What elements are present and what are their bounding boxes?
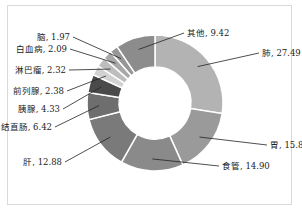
data-label-10: 其他, 9.42 — [187, 28, 229, 38]
data-label-1: 胃, 15.80 — [270, 140, 302, 150]
data-label-3: 肝, 12.88 — [23, 157, 62, 167]
data-label-4: 结直肠, 6.42 — [1, 122, 52, 132]
data-label-6: 前列腺, 2.38 — [13, 86, 64, 96]
data-label-7: 淋巴瘤, 2.32 — [15, 65, 66, 75]
leader-line-3 — [65, 137, 110, 162]
slice-0 — [155, 35, 223, 114]
leader-line-9 — [73, 37, 121, 59]
data-label-2: 食管, 14.90 — [222, 161, 270, 171]
data-label-5: 胰腺, 4.33 — [18, 104, 60, 114]
donut-chart: 肺, 27.49胃, 15.80食管, 14.90肝, 12.88结直肠, 6.… — [0, 0, 302, 213]
data-label-8: 白血病, 2.09 — [16, 44, 67, 54]
data-label-9: 脑, 1.97 — [37, 32, 70, 42]
data-label-0: 肺, 27.49 — [262, 48, 301, 58]
